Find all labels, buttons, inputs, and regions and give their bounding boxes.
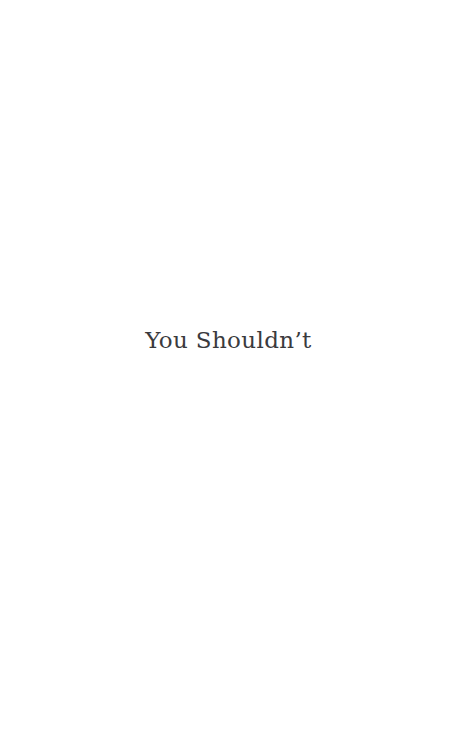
title-block: You Shouldn’t [0, 318, 457, 364]
page-top-blank-area [0, 0, 457, 318]
page-title: You Shouldn’t [145, 327, 311, 355]
document-page: You Shouldn’t [0, 0, 457, 742]
page-bottom-blank-area [0, 364, 457, 742]
